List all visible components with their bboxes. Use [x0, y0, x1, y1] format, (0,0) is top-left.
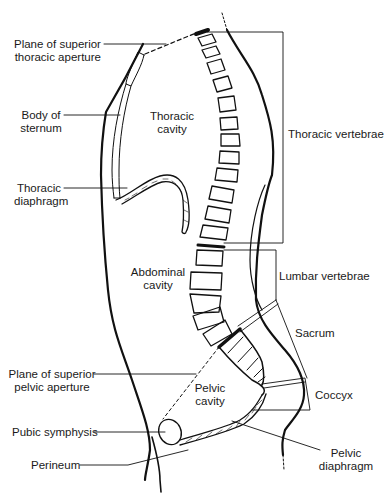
thoracic-diaphragm-shape	[116, 175, 189, 234]
thoracic-vertebrae-bodies	[198, 34, 240, 240]
label-line: cavity	[190, 395, 230, 408]
label-thoracic-vertebrae: Thoracic vertebrae	[288, 128, 384, 141]
posterior-body-top-dash	[222, 13, 227, 30]
superior-thoracic-aperture-plane	[145, 33, 196, 54]
label-line: pelvic aperture	[8, 381, 96, 394]
label-line: Pelvic	[310, 447, 382, 460]
anterior-lower-outline	[152, 437, 161, 492]
sternum-manubrium	[126, 52, 144, 86]
trunk-sagittal-diagram	[0, 0, 390, 497]
posterior-body-bottom-dash	[283, 455, 284, 470]
label-line: diaphragm	[14, 195, 64, 208]
label-line: sternum	[18, 122, 64, 135]
label-plane-superior-thoracic-aperture: Plane of superior thoracic aperture	[14, 38, 101, 64]
label-line: Pelvic	[190, 382, 230, 395]
label-coccyx: Coccyx	[315, 389, 353, 402]
label-line: cavity	[127, 279, 189, 292]
label-line: Plane of superior	[14, 38, 101, 51]
label-thoracic-cavity: Thoracic cavity	[142, 110, 202, 136]
label-plane-superior-pelvic-aperture: Plane of superior pelvic aperture	[8, 368, 96, 394]
label-line: Body of	[18, 109, 64, 122]
lumbosacral-junction-marker	[219, 329, 240, 347]
label-line: Thoracic	[14, 182, 64, 195]
posterior-body-outline	[227, 30, 304, 455]
thoracic-diaphragm-hatch	[125, 179, 188, 222]
label-body-of-sternum: Body of sternum	[18, 109, 64, 135]
label-line: Plane of superior	[8, 368, 96, 381]
label-perineum: Perineum	[31, 459, 80, 472]
label-sacrum: Sacrum	[295, 327, 335, 340]
label-pelvic-cavity: Pelvic cavity	[190, 382, 230, 408]
lumbar-vertebrae-bodies	[190, 250, 232, 346]
label-pelvic-diaphragm: Pelvic diaphragm	[310, 447, 382, 473]
label-line: Abdominal	[127, 266, 189, 279]
label-pubic-symphysis: Pubic symphysis	[12, 426, 98, 439]
thoracolumbar-junction-marker	[198, 245, 224, 247]
label-line: diaphragm	[310, 460, 382, 473]
label-lumbar-vertebrae: Lumbar vertebrae	[279, 270, 370, 283]
sternum-body	[112, 84, 131, 198]
label-line: thoracic aperture	[14, 51, 101, 64]
label-abdominal-cavity: Abdominal cavity	[127, 266, 189, 292]
label-thoracic-diaphragm: Thoracic diaphragm	[14, 182, 64, 208]
label-line: Thoracic	[142, 110, 202, 123]
label-line: cavity	[142, 123, 202, 136]
thoracic-t1-marker	[196, 30, 208, 34]
